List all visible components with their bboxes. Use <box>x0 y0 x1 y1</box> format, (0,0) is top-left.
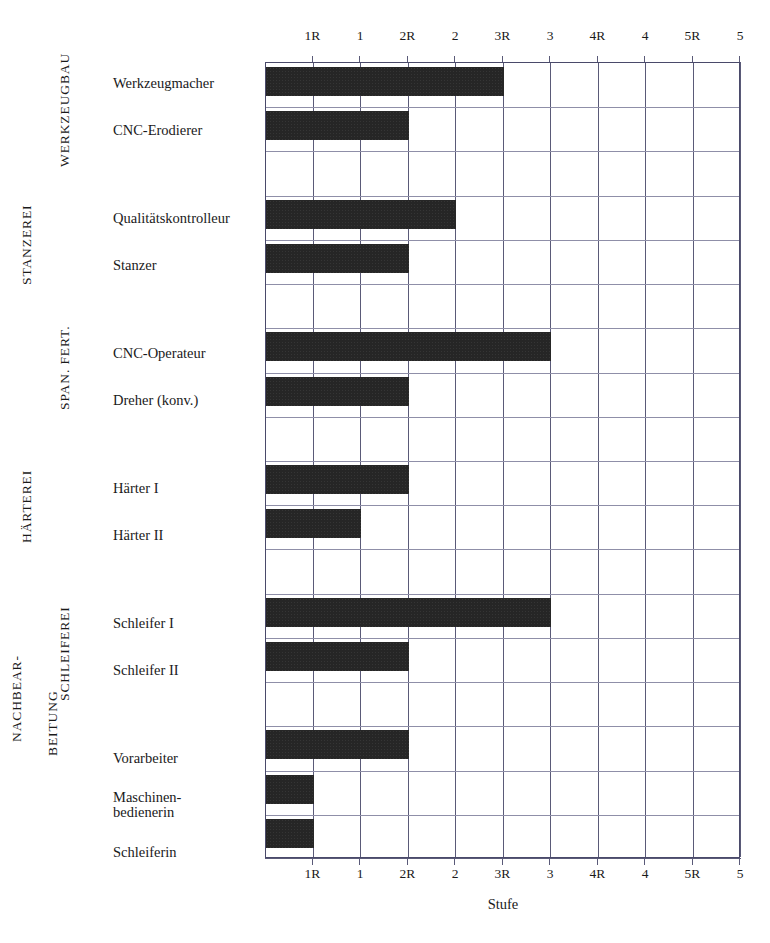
gridline-horizontal <box>266 549 739 550</box>
tick-label-2: 2 <box>438 28 472 44</box>
gridline-horizontal <box>266 107 739 108</box>
bar-schleifer-ii <box>266 642 409 671</box>
bar-dreher-(konv.) <box>266 377 409 406</box>
tick-mark <box>407 858 408 865</box>
tick-label-3R: 3R <box>486 28 520 44</box>
bar-härter-ii <box>266 509 361 538</box>
tick-mark <box>597 858 598 865</box>
tick-label-5: 5 <box>723 866 757 882</box>
bar-vorarbeiter <box>266 730 409 759</box>
bar-schleifer-i <box>266 598 551 627</box>
gridline-horizontal <box>266 196 739 197</box>
row-label-schleifer-i: Schleifer I <box>113 616 174 631</box>
bar-chart: 1R12R23R34R45R5 1R12R23R34R45R5 WERKZEUG… <box>0 0 770 943</box>
tick-mark <box>454 858 455 865</box>
bar-werkzeugmacher <box>266 67 504 96</box>
gridline-vertical <box>503 63 504 857</box>
gridline-horizontal <box>266 240 739 241</box>
tick-label-3R: 3R <box>486 866 520 882</box>
row-label-werkzeugmacher: Werkzeugmacher <box>113 76 214 91</box>
tick-label-2R: 2R <box>391 866 425 882</box>
gridline-vertical <box>693 63 694 857</box>
tick-label-4: 4 <box>628 866 662 882</box>
tick-mark <box>549 858 550 865</box>
gridline-vertical <box>455 63 456 857</box>
gridline-horizontal <box>266 815 739 816</box>
group-label-stanzerei: STANZEREI <box>20 172 38 317</box>
tick-mark <box>359 858 360 865</box>
gridline-horizontal <box>266 461 739 462</box>
tick-label-1R: 1R <box>296 28 330 44</box>
group-label-schleiferei: SCHLEIFEREI <box>58 580 76 728</box>
bar-cnc-operateur <box>266 332 551 361</box>
group-label-haerterei: HÄRTEREI <box>20 440 38 572</box>
tick-label-5R: 5R <box>676 866 710 882</box>
row-label-cnc-erodierer: CNC-Erodierer <box>113 123 202 138</box>
gridline-vertical <box>645 63 646 857</box>
bar-schleiferin <box>266 819 314 848</box>
tick-label-4R: 4R <box>581 28 615 44</box>
gridline-horizontal <box>266 726 739 727</box>
row-label-maschinenbedienerin: Maschinen- bedienerin <box>113 790 181 821</box>
row-label-schleifer-ii: Schleifer II <box>113 663 179 678</box>
row-label-qualitaetskontrolleur: Qualitätskontrolleur <box>113 211 230 226</box>
gridline-horizontal <box>266 594 739 595</box>
bar-qualitätskontrolleur <box>266 200 456 229</box>
plot-area <box>265 62 740 858</box>
tick-mark <box>312 858 313 865</box>
gridline-vertical <box>550 63 551 857</box>
gridline-vertical <box>598 63 599 857</box>
gridline-horizontal <box>266 328 739 329</box>
group-label-span-fert: SPAN. FERT. <box>58 313 76 423</box>
tick-label-1: 1 <box>343 28 377 44</box>
tick-label-3: 3 <box>533 866 567 882</box>
tick-label-4: 4 <box>628 28 662 44</box>
row-label-vorarbeiter: Vorarbeiter <box>113 751 178 766</box>
gridline-horizontal <box>266 284 739 285</box>
tick-mark <box>692 858 693 865</box>
x-axis-title: Stufe <box>265 896 741 913</box>
row-label-cnc-operateur: CNC-Operateur <box>113 346 206 361</box>
tick-mark <box>644 858 645 865</box>
row-label-stanzer: Stanzer <box>113 258 156 273</box>
gridline-horizontal <box>266 771 739 772</box>
bar-cnc-erodierer <box>266 111 409 140</box>
tick-label-5: 5 <box>723 28 757 44</box>
tick-label-3: 3 <box>533 28 567 44</box>
gridline-horizontal <box>266 505 739 506</box>
row-label-haerter-ii: Härter II <box>113 528 163 543</box>
gridline-horizontal <box>266 638 739 639</box>
bottom-axis-line <box>265 858 741 859</box>
gridline-horizontal <box>266 151 739 152</box>
bar-stanzer <box>266 244 409 273</box>
tick-label-1: 1 <box>343 866 377 882</box>
tick-label-5R: 5R <box>676 28 710 44</box>
tick-mark <box>502 858 503 865</box>
tick-label-4R: 4R <box>581 866 615 882</box>
tick-label-2: 2 <box>438 866 472 882</box>
group-label-werkzeugbau: WERKZEUGBAU <box>58 30 76 190</box>
gridline-horizontal <box>266 373 739 374</box>
bar-härter-i <box>266 465 409 494</box>
bar-maschinen--bedienerin <box>266 775 314 804</box>
row-label-dreher-konv: Dreher (konv.) <box>113 393 198 408</box>
gridline-horizontal <box>266 417 739 418</box>
row-label-schleiferin: Schleiferin <box>113 845 177 860</box>
tick-label-1R: 1R <box>296 866 330 882</box>
tick-label-2R: 2R <box>391 28 425 44</box>
gridline-horizontal <box>266 682 739 683</box>
tick-mark <box>739 858 740 865</box>
row-label-haerter-i: Härter I <box>113 481 158 496</box>
gridline-vertical <box>740 63 741 857</box>
